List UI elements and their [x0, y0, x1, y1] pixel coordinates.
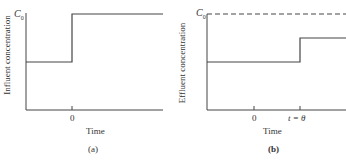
- panel-b-x-axis-label: Time: [263, 126, 282, 136]
- figure-graphics: [0, 0, 346, 162]
- panel-b-tick-t-theta: t = θ: [288, 113, 306, 123]
- panel-b-c0-label: C0: [196, 7, 206, 20]
- panel-a-c0-label: C0: [14, 8, 24, 21]
- panel-a-x-axis-label: Time: [86, 126, 105, 136]
- panel-b-tick-0: 0: [252, 113, 257, 123]
- panel-b-caption: (b): [268, 144, 279, 154]
- panel-a-tick-0: 0: [70, 113, 75, 123]
- panel-b-y-axis-label: Effluent concentration: [177, 13, 187, 113]
- panel-a-step-curve: [26, 14, 163, 62]
- panel-b-step-curve: [207, 38, 346, 62]
- panel-a-y-axis-label: Influent concentration: [2, 5, 12, 105]
- panel-a-caption: (a): [88, 144, 98, 154]
